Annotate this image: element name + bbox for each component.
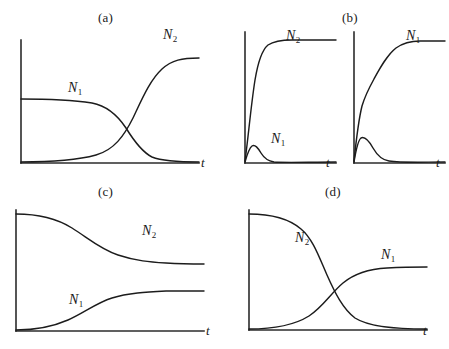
panel-a-label: (a) <box>98 10 113 26</box>
panel-b2-plot <box>340 0 449 180</box>
panel-b1-plot <box>230 0 340 180</box>
panel-b1-curve-n1 <box>245 145 336 162</box>
panel-d-label: (d) <box>325 184 341 200</box>
panel-d: (d) N2 N1 t <box>235 175 449 349</box>
panel-d-xaxis-label: t <box>423 323 427 339</box>
panel-b1-curve-label-n2: N2 <box>286 28 300 44</box>
panel-a: (a) N1 N2 t <box>0 0 230 180</box>
panel-c-plot <box>0 175 240 349</box>
panel-d-plot <box>235 175 449 349</box>
panel-c-curve-n1 <box>16 291 204 330</box>
panel-a-xaxis-label: t <box>201 155 205 171</box>
panel-b2-curve-label-n1: N1 <box>406 28 420 44</box>
figure-population-dynamics: (a) N1 N2 t N2 N1 t (b) N1 t <box>0 0 449 349</box>
panel-b2-label: (b) <box>342 10 358 26</box>
panel-b2: (b) N1 t <box>340 0 449 180</box>
panel-c-xaxis-label: t <box>206 323 210 339</box>
panel-d-curve-n2 <box>249 214 427 329</box>
panel-b2-curve-n1 <box>354 41 445 161</box>
panel-a-plot <box>0 0 230 180</box>
panel-c-curve-n2 <box>16 214 204 264</box>
panel-c-curve-label-n1: N1 <box>69 292 83 308</box>
panel-b1-xaxis-label: t <box>326 155 330 171</box>
panel-a-curve-n1 <box>21 99 199 162</box>
panel-a-curve-label-n2: N2 <box>163 27 177 43</box>
panel-b2-xaxis-label: t <box>436 155 440 171</box>
panel-c-label: (c) <box>98 184 113 200</box>
panel-c-curve-label-n2: N2 <box>142 223 156 239</box>
panel-b2-curve-transient <box>354 138 445 163</box>
panel-c: (c) N2 N1 t <box>0 175 240 349</box>
panel-d-curve-label-n1: N1 <box>381 247 395 263</box>
panel-b1: N2 N1 t <box>230 0 340 180</box>
panel-a-curve-label-n1: N1 <box>68 80 82 96</box>
panel-b1-curve-n2 <box>245 40 336 161</box>
panel-b1-curve-label-n1: N1 <box>271 131 285 147</box>
panel-d-curve-label-n2: N2 <box>295 230 309 246</box>
